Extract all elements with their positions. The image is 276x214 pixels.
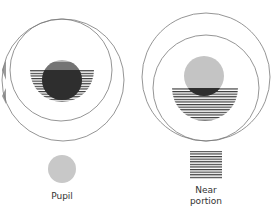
near-label-line1: Near	[180, 185, 232, 196]
near-view	[142, 13, 270, 141]
distance-view	[2, 19, 124, 141]
lens-diagram	[0, 0, 276, 214]
pupil-label: Pupil	[38, 191, 86, 202]
near-portion-legend-swatch	[190, 151, 222, 179]
near-portion-label: Near portion	[180, 185, 232, 207]
pupil-legend-swatch	[48, 155, 76, 183]
near-label-line2: portion	[180, 196, 232, 207]
